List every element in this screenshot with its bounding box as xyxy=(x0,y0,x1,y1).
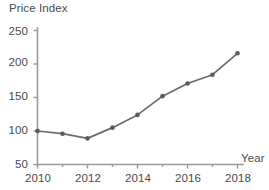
data-point-2011 xyxy=(60,131,65,136)
data-point-2016 xyxy=(185,81,190,86)
plot-area xyxy=(0,0,269,190)
data-point-2018 xyxy=(235,51,240,56)
data-point-2017 xyxy=(210,72,215,77)
data-point-2013 xyxy=(110,125,115,130)
data-point-2014 xyxy=(135,113,140,118)
axis-lines xyxy=(38,28,244,165)
price-index-line-chart: Price Index Year 250 200 150 100 50 2010… xyxy=(0,0,269,190)
data-point-2015 xyxy=(160,94,165,99)
data-line xyxy=(38,53,238,138)
data-point-2010 xyxy=(35,129,40,134)
data-point-2012 xyxy=(85,136,90,141)
data-markers xyxy=(35,51,240,141)
